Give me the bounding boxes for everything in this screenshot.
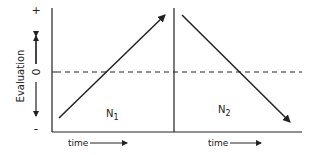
minus-symbol: -	[34, 122, 38, 136]
panel-label-n1: N1	[106, 108, 119, 122]
decreasing-trend-arrow	[182, 15, 290, 122]
zero-symbol: 0	[30, 69, 43, 76]
time-label-1: time	[68, 138, 89, 148]
time-label-2: time	[208, 138, 229, 148]
evaluation-diagram: + 0 - Evaluation N1 N2 time time	[0, 0, 312, 155]
plus-symbol: +	[31, 4, 40, 17]
increasing-trend-arrow	[59, 15, 165, 118]
panel-label-n2: N2	[218, 104, 231, 118]
y-axis-label: Evaluation	[15, 50, 26, 103]
